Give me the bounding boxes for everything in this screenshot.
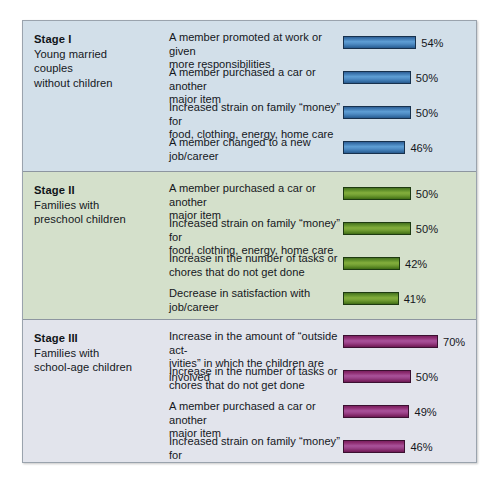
- row-label-line-1: Increase in the number of tasks or: [169, 252, 343, 266]
- row-label: Increased strain on family “money” for f…: [169, 433, 343, 463]
- bar-zone: 50%: [343, 99, 476, 119]
- row-label-line-1: A member changed to a new: [169, 136, 343, 150]
- table-row: Increased strain on family “money” for f…: [169, 215, 476, 250]
- row-label-line-1: Increased strain on family “money” for: [169, 435, 343, 462]
- bar-value-label: 50%: [411, 188, 438, 200]
- bar-zone: 41%: [343, 285, 476, 305]
- table-row: Increase in the number of tasks or chore…: [169, 250, 476, 285]
- table-row: A member purchased a car or another majo…: [169, 398, 476, 433]
- stage-1-title: Stage I: [34, 32, 161, 47]
- bar-zone: 46%: [343, 134, 476, 154]
- table-row: Increase in the number of tasks or chore…: [169, 363, 476, 398]
- bar-value-label: 70%: [438, 336, 465, 348]
- stage-comparison-chart: Stage I Young married couples without ch…: [22, 20, 477, 463]
- row-label: Decrease in satisfaction with job/career: [169, 285, 343, 314]
- bar-zone: 50%: [343, 180, 476, 200]
- stage-2-heading: Stage II Families with preschool childre…: [23, 172, 169, 319]
- stage-3-subtitle-line-1: Families with: [34, 346, 161, 361]
- row-label-line-1: A member promoted at work or given: [169, 31, 343, 58]
- bar: [343, 36, 416, 49]
- bar-value-label: 50%: [411, 107, 438, 119]
- bar-zone: 46%: [343, 433, 476, 453]
- bar-value-label: 50%: [411, 223, 438, 235]
- bar: [343, 222, 411, 235]
- table-row: A member changed to a new job/career 46%: [169, 134, 476, 169]
- bar-value-label: 50%: [411, 371, 438, 383]
- row-label-line-1: Increased strain on family “money” for: [169, 217, 343, 244]
- row-label-line-1: A member purchased a car or another: [169, 182, 343, 209]
- bar-value-label: 54%: [416, 37, 443, 49]
- table-row: A member purchased a car or another majo…: [169, 180, 476, 215]
- stage-panel-1: Stage I Young married couples without ch…: [23, 21, 476, 171]
- row-label-line-2: chores that do not get done: [169, 266, 343, 280]
- row-label: A member changed to a new job/career: [169, 134, 343, 163]
- stage-3-subtitle-line-2: school-age children: [34, 360, 161, 375]
- row-label-line-2: food, clothing, energy, home care: [169, 462, 343, 463]
- stage-2-subtitle-line-1: Families with: [34, 198, 161, 213]
- bar: [343, 257, 400, 270]
- table-row: Increased strain on family “money” for f…: [169, 433, 476, 463]
- bar: [343, 370, 411, 383]
- bar-zone: 49%: [343, 398, 476, 418]
- table-row: Increase in the amount of “outside act- …: [169, 328, 476, 363]
- bar-zone: 50%: [343, 363, 476, 383]
- bar: [343, 440, 405, 453]
- table-row: Increased strain on family “money” for f…: [169, 99, 476, 134]
- stage-2-title: Stage II: [34, 183, 161, 198]
- bar: [343, 187, 411, 200]
- bar-zone: 54%: [343, 29, 476, 49]
- bar-value-label: 50%: [411, 72, 438, 84]
- bar: [343, 335, 438, 348]
- row-label-line-2: job/career: [169, 150, 343, 164]
- bar-zone: 42%: [343, 250, 476, 270]
- bar: [343, 141, 405, 154]
- stage-1-rows: A member promoted at work or given more …: [169, 21, 476, 171]
- row-label-line-1: Increase in the amount of “outside act-: [169, 330, 343, 357]
- row-label-line-2: chores that do not get done: [169, 379, 343, 393]
- row-label: Increase in the number of tasks or chore…: [169, 250, 343, 279]
- bar-value-label: 46%: [405, 441, 432, 453]
- stage-2-rows: A member purchased a car or another majo…: [169, 172, 476, 319]
- row-label-line-1: A member purchased a car or another: [169, 66, 343, 93]
- row-label: Increase in the number of tasks or chore…: [169, 363, 343, 392]
- stage-3-heading: Stage III Families with school-age child…: [23, 320, 169, 462]
- table-row: A member purchased a car or another majo…: [169, 64, 476, 99]
- bar: [343, 405, 409, 418]
- stage-1-heading: Stage I Young married couples without ch…: [23, 21, 169, 171]
- bar-value-label: 49%: [409, 406, 436, 418]
- stage-2-subtitle-line-2: preschool children: [34, 212, 161, 227]
- bar: [343, 292, 399, 305]
- stage-3-rows: Increase in the amount of “outside act- …: [169, 320, 476, 462]
- bar-value-label: 41%: [399, 293, 426, 305]
- stage-1-subtitle-line-2: couples: [34, 61, 161, 76]
- bar-zone: 70%: [343, 328, 476, 348]
- row-label-line-1: Increase in the number of tasks or: [169, 365, 343, 379]
- stage-1-subtitle-line-3: without children: [34, 76, 161, 91]
- row-label-line-2: job/career: [169, 301, 343, 315]
- stage-1-subtitle-line-1: Young married: [34, 47, 161, 62]
- bar-zone: 50%: [343, 215, 476, 235]
- row-label-line-1: Increased strain on family “money” for: [169, 101, 343, 128]
- bar: [343, 71, 411, 84]
- stage-panel-3: Stage III Families with school-age child…: [23, 319, 476, 462]
- stage-panel-2: Stage II Families with preschool childre…: [23, 171, 476, 319]
- bar-value-label: 42%: [400, 258, 427, 270]
- row-label-line-1: Decrease in satisfaction with: [169, 287, 343, 301]
- table-row: A member promoted at work or given more …: [169, 29, 476, 64]
- bar-zone: 50%: [343, 64, 476, 84]
- table-row: Decrease in satisfaction with job/career…: [169, 285, 476, 320]
- bar: [343, 106, 411, 119]
- row-label-line-1: A member purchased a car or another: [169, 400, 343, 427]
- bar-value-label: 46%: [405, 142, 432, 154]
- stage-3-title: Stage III: [34, 331, 161, 346]
